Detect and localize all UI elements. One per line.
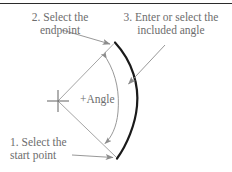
callout-angle-entry-line2: included angle	[112, 24, 230, 37]
figure-container: 2. Select the endpoint 3. Enter or selec…	[0, 0, 232, 172]
callout-start-point-line1: 1. Select the	[10, 136, 67, 149]
callout-enter-included-angle: 3. Enter or select the included angle	[112, 11, 230, 37]
leader-line-angle-entry	[129, 45, 166, 84]
callout-start-point-line2: start point	[10, 149, 67, 162]
callout-select-start-point: 1. Select the start point	[10, 136, 67, 162]
callout-select-endpoint: 2. Select the endpoint	[8, 11, 112, 37]
leader-line-start-point	[72, 155, 113, 158]
radius-line-to-start-point	[58, 101, 116, 157]
callout-angle-entry-line1: 3. Enter or select the	[112, 11, 230, 24]
callout-endpoint-line1: 2. Select the	[8, 11, 112, 24]
callout-endpoint-line2: endpoint	[8, 24, 112, 37]
angle-value-label: +Angle	[80, 93, 115, 106]
